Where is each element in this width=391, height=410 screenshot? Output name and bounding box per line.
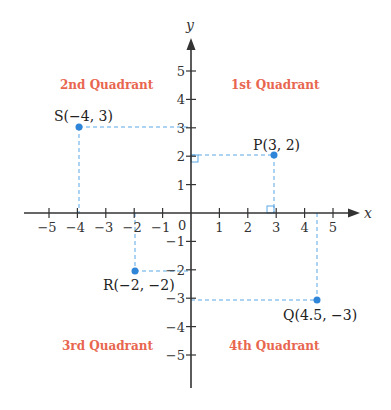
x-tick-label: −3 <box>94 220 113 235</box>
point-label-q: Q(4.5, −3) <box>283 307 357 323</box>
x-tick-label: 2 <box>244 220 252 235</box>
x-axis-label: x <box>364 205 372 221</box>
x-tick-label: −2 <box>123 220 142 235</box>
y-tick-label: 3 <box>177 121 185 136</box>
y-tick-label: −4 <box>166 320 185 335</box>
x-tick-label: 1 <box>215 220 223 235</box>
right-angle-marker-x <box>267 206 274 213</box>
x-tick-labels: −5−4−3−2−112345 <box>37 220 337 235</box>
point-q <box>314 297 321 304</box>
quadrant-label-3rd: 3rd Quadrant <box>62 339 153 353</box>
x-tick-label: −4 <box>66 220 85 235</box>
quadrant-label-1st: 1st Quadrant <box>231 78 320 92</box>
coordinate-plane: −5−4−3−2−112345 54321−1−2−3−4−5 0 x y 2n… <box>0 0 391 410</box>
y-tick-label: −3 <box>166 291 185 306</box>
y-tick-label: −5 <box>166 348 185 363</box>
point-label-p: P(3, 2) <box>253 137 300 153</box>
x-axis-arrow-icon <box>348 209 360 218</box>
y-tick-label: −2 <box>166 263 185 278</box>
point-label-r: R(−2, −2) <box>103 277 175 293</box>
x-axis <box>24 209 360 218</box>
y-tick-label: 5 <box>177 64 185 79</box>
x-tick-label: 4 <box>300 220 308 235</box>
quadrant-label-4th: 4th Quadrant <box>229 339 320 353</box>
y-tick-label: 1 <box>177 178 185 193</box>
y-axis-arrow-icon <box>187 38 196 50</box>
quadrant-label-2nd: 2nd Quadrant <box>60 78 154 92</box>
y-tick-label: 2 <box>177 149 185 164</box>
x-tick-label: 5 <box>329 220 337 235</box>
y-axis-label: y <box>185 17 195 33</box>
y-tick-label: −1 <box>166 234 185 249</box>
origin-label: 0 <box>178 218 186 233</box>
x-tick-label: −5 <box>37 220 56 235</box>
x-tick-label: 3 <box>272 220 280 235</box>
point-s <box>76 124 83 131</box>
point-r <box>132 268 139 275</box>
x-tick-label: −1 <box>151 220 170 235</box>
point-label-s: S(−4, 3) <box>54 108 113 124</box>
y-tick-label: 4 <box>177 92 185 107</box>
